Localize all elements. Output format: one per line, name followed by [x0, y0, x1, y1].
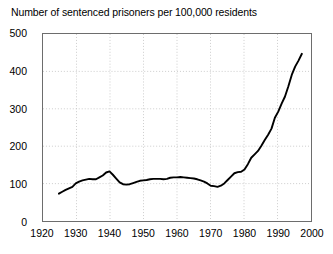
chart-root: Number of sentenced prisoners per 100,00…	[0, 0, 333, 254]
x-axis-ticks: 192019301940195019601970198019902000	[0, 0, 333, 254]
x-tick-label: 2000	[292, 228, 332, 238]
